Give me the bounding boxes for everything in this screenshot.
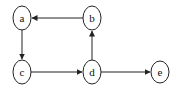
node-a: a xyxy=(13,6,31,30)
node-a-label: a xyxy=(20,12,25,24)
node-c-label: c xyxy=(20,66,25,78)
node-b-label: b xyxy=(89,12,95,24)
node-b: b xyxy=(83,6,101,30)
node-e: e xyxy=(151,61,169,83)
graph-canvas: a b c d e xyxy=(0,0,184,93)
node-c: c xyxy=(13,60,31,84)
node-e-label: e xyxy=(158,66,163,78)
node-d: d xyxy=(83,60,101,84)
node-d-label: d xyxy=(89,66,95,78)
